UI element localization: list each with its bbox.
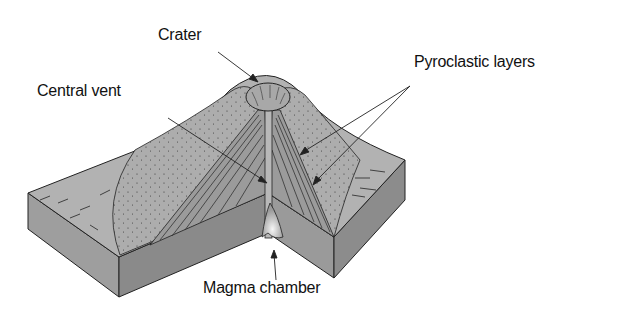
magma-chamber-label: Magma chamber	[203, 279, 320, 297]
central-vent-label: Central vent	[37, 82, 121, 100]
crater-label: Crater	[158, 26, 201, 44]
pyroclastic-layers-label: Pyroclastic layers	[414, 53, 535, 71]
volcano-diagram	[0, 0, 625, 318]
crater-arrow	[218, 52, 254, 79]
